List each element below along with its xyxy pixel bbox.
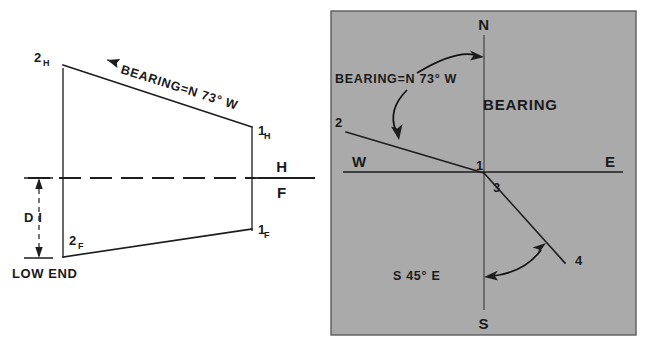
compass-label-east: E — [605, 153, 616, 170]
bearing-direction-arrow-group — [106, 56, 120, 68]
bearing-note-group: BEARING=N 73° W — [119, 63, 240, 113]
label-point-2h-subscript: H — [43, 58, 50, 68]
dimension-arrowhead-down — [35, 247, 42, 258]
label-low-end: LOW END — [12, 266, 78, 281]
compass-label-north: N — [478, 16, 490, 33]
dimension-arrowhead-up — [35, 178, 42, 189]
label-point-1f-subscript: F — [264, 230, 270, 240]
dimension-label-di: D I — [24, 210, 42, 225]
fold-label-f: F — [277, 184, 287, 201]
front-view-object-line — [63, 229, 252, 257]
bearing-note-left: BEARING=N 73° W — [119, 63, 240, 113]
label-point-2f: 2 — [69, 233, 77, 248]
point-label-4: 4 — [575, 253, 583, 268]
bearing-arrowhead — [106, 56, 120, 68]
label-point-2h: 2 — [34, 50, 42, 65]
label-point-1h-subscript: H — [264, 131, 271, 141]
technical-figure: H F 2 H 1 H 2 F 1 F D I LOW END — [0, 0, 653, 355]
point-label-3: 3 — [493, 180, 500, 195]
compass-label-south: S — [479, 315, 490, 332]
fold-label-h: H — [276, 158, 288, 175]
annotation-bearing-nw: BEARING=N 73° W — [335, 72, 457, 86]
left-orthographic-panel: H F 2 H 1 H 2 F 1 F D I LOW END — [0, 0, 330, 355]
panel-title: BEARING — [483, 96, 558, 113]
point-label-1: 1 — [476, 158, 483, 173]
label-point-2f-subscript: F — [78, 241, 84, 251]
right-compass-panel: N S W E 2 1 3 4 BEARING BEARING=N 73° W — [325, 0, 653, 355]
point-label-2: 2 — [335, 115, 342, 130]
compass-label-west: W — [352, 153, 367, 170]
annotation-bearing-se: S 45° E — [393, 269, 440, 283]
